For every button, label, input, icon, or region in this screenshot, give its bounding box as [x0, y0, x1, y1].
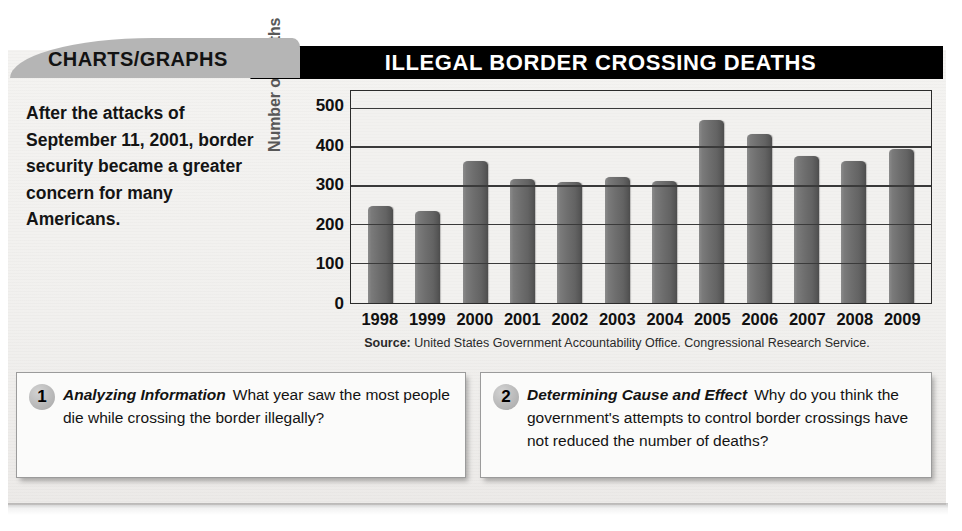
gridline	[351, 108, 931, 109]
question-text-1: Analyzing InformationWhat year saw the m…	[63, 384, 453, 430]
x-tick-label: 2003	[594, 310, 642, 329]
y-tick-label: 100	[316, 254, 344, 274]
gridline	[351, 185, 931, 186]
x-tick-label: 1998	[356, 310, 404, 329]
gridline	[351, 224, 931, 225]
x-axis-labels: 1998199920002001200220032004200520062007…	[350, 310, 932, 329]
x-tick-label: 2007	[784, 310, 832, 329]
source-label: Source:	[364, 336, 411, 350]
page-root: CHARTS/GRAPHS ILLEGAL BORDER CROSSING DE…	[0, 0, 962, 531]
y-tick-label: 400	[316, 136, 344, 156]
gridline	[351, 263, 931, 264]
question-box-2[interactable]: 2 Determining Cause and EffectWhy do you…	[480, 372, 932, 478]
gridline	[351, 146, 931, 147]
bar	[794, 156, 819, 303]
question-lead-1: Analyzing Information	[63, 386, 226, 403]
x-tick-label: 2006	[736, 310, 784, 329]
y-axis-ticks: 0100200300400500	[298, 98, 346, 304]
bar-slot	[499, 91, 546, 303]
source-text: United States Government Accountability …	[414, 336, 870, 350]
bar-slot	[878, 91, 925, 303]
bar	[557, 182, 582, 303]
y-tick-label: 0	[335, 294, 344, 314]
bar	[605, 177, 630, 303]
question-text-2: Determining Cause and EffectWhy do you t…	[527, 384, 919, 453]
x-tick-label: 2002	[546, 310, 594, 329]
bar-slot	[452, 91, 499, 303]
bar	[889, 149, 914, 303]
question-number-badge: 2	[493, 384, 519, 410]
question-number-badge: 1	[29, 384, 55, 410]
bar-slot	[688, 91, 735, 303]
page-title: ILLEGAL BORDER CROSSING DEATHS	[258, 50, 943, 76]
x-tick-label: 2005	[689, 310, 737, 329]
section-tab-label: CHARTS/GRAPHS	[48, 48, 228, 71]
bar	[652, 181, 677, 303]
y-tick-label: 500	[316, 96, 344, 116]
bar	[510, 179, 535, 303]
question-lead-2: Determining Cause and Effect	[527, 386, 747, 403]
source-note: Source: United States Government Account…	[294, 336, 940, 350]
bar	[368, 206, 393, 303]
x-tick-label: 2009	[879, 310, 927, 329]
bar	[747, 134, 772, 303]
plot-area	[350, 90, 932, 304]
y-tick-label: 200	[316, 215, 344, 235]
bar	[463, 161, 488, 303]
x-tick-label: 2001	[499, 310, 547, 329]
bar-slot	[546, 91, 593, 303]
bar-slot	[736, 91, 783, 303]
bar-chart: Number of deaths 0100200300400500 199819…	[272, 98, 940, 338]
x-tick-label: 2004	[641, 310, 689, 329]
bar-slot	[357, 91, 404, 303]
page-bottom-shadow	[8, 503, 948, 515]
x-tick-label: 2008	[831, 310, 879, 329]
intro-paragraph: After the attacks of September 11, 2001,…	[26, 100, 261, 233]
bar-slot	[830, 91, 877, 303]
x-tick-label: 1999	[404, 310, 452, 329]
x-tick-label: 2000	[451, 310, 499, 329]
bar	[841, 161, 866, 303]
bar-series	[351, 91, 931, 303]
bar-slot	[783, 91, 830, 303]
y-tick-label: 300	[316, 175, 344, 195]
bar-slot	[594, 91, 641, 303]
question-box-1[interactable]: 1 Analyzing InformationWhat year saw the…	[16, 372, 466, 478]
bar-slot	[641, 91, 688, 303]
bar-slot	[404, 91, 451, 303]
